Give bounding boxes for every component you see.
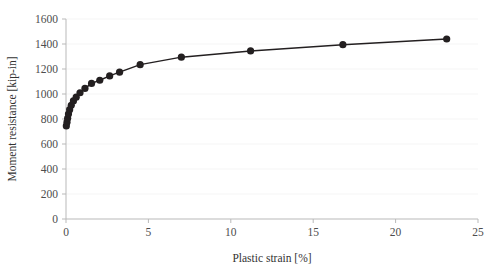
data-point-marker: [137, 61, 144, 68]
x-tick-label: 25: [472, 226, 484, 238]
x-tick-label: 15: [307, 226, 319, 238]
y-tick-label: 1600: [35, 13, 58, 25]
y-tick-label: 1400: [35, 38, 58, 50]
x-tick-label: 10: [225, 226, 237, 238]
data-point-marker: [178, 54, 185, 61]
data-point-marker: [81, 85, 88, 92]
data-point-marker: [116, 69, 123, 76]
y-tick-label: 400: [41, 163, 59, 175]
chart-figure: 02004006008001000120014001600 0510152025…: [0, 0, 494, 274]
y-tick-label: 800: [41, 113, 59, 125]
x-tick-label: 20: [390, 226, 402, 238]
data-point-marker: [106, 72, 113, 79]
data-point-marker: [339, 41, 346, 48]
x-tick-label: 5: [146, 226, 152, 238]
data-point-marker: [88, 80, 95, 87]
y-tick-label: 1000: [35, 88, 58, 100]
x-tick-label: 0: [63, 226, 69, 238]
data-point-marker: [443, 35, 450, 42]
data-point-marker: [247, 47, 254, 54]
y-tick-label: 600: [41, 138, 59, 150]
y-tick-label: 200: [41, 188, 59, 200]
y-tick-label: 0: [52, 213, 58, 225]
y-tick-label: 1200: [35, 63, 58, 75]
y-axis-title: Moment resistance [kip-in]: [6, 56, 19, 181]
x-axis-title: Plastic strain [%]: [232, 252, 311, 264]
plastic-strain-moment-resistance-chart: 02004006008001000120014001600 0510152025…: [0, 0, 494, 274]
data-point-marker: [96, 77, 103, 84]
